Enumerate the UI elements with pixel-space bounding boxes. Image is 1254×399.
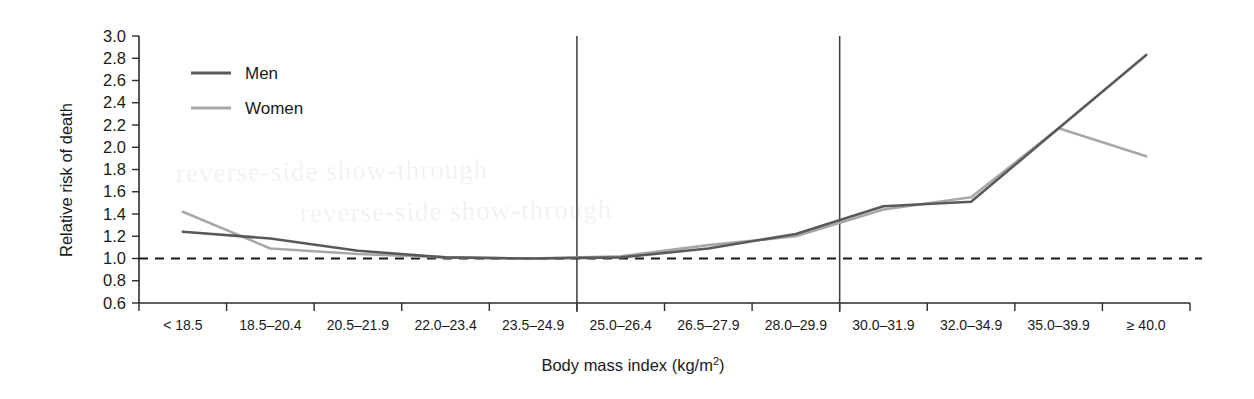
x-tick-label: 28.0–29.9 [765,317,827,333]
series-line-women [183,128,1146,258]
x-tick-label: < 18.5 [163,317,203,333]
relative-risk-of-death-line-chart: Relative risk of death 3.02.82.62.42.22.… [0,0,1254,399]
series-line-men [183,55,1146,259]
y-tick-label: 0.8 [103,271,126,289]
y-tick-label: 2.6 [103,71,126,89]
legend-label-women: Women [245,99,303,118]
y-axis-ticks: 3.02.82.62.42.22.01.81.61.41.21.00.80.6 [103,27,139,312]
chart-figure: reverse-side show-through reverse-side s… [0,0,1254,399]
data-series-group [183,55,1146,259]
x-tick-label: 23.5–24.9 [502,317,564,333]
y-tick-label: 1.0 [103,249,126,267]
y-tick-label: 1.6 [103,182,126,200]
y-tick-label: 2.8 [103,49,126,67]
x-tick-label: 32.0–34.9 [940,317,1002,333]
y-tick-label: 2.0 [103,138,126,156]
y-tick-label: 1.2 [103,227,126,245]
y-tick-label: 2.4 [103,93,126,111]
y-tick-label: 1.4 [103,205,126,223]
x-tick-label: 22.0–23.4 [414,317,476,333]
x-tick-label: 25.0–26.4 [590,317,652,333]
x-axis-ticks [139,303,1190,311]
y-tick-label: 3.0 [103,27,126,45]
y-tick-label: 0.6 [103,294,126,312]
x-tick-label: 18.5–20.4 [239,317,301,333]
x-tick-label: 26.5–27.9 [677,317,739,333]
y-tick-label: 1.8 [103,160,126,178]
x-axis-title-base: Body mass index (kg/m [541,356,712,374]
vertical-reference-lines [577,36,840,312]
x-axis-tick-labels: < 18.518.5–20.420.5–21.922.0–23.423.5–24… [163,317,1166,333]
x-tick-label: 35.0–39.9 [1027,317,1089,333]
x-tick-label: 20.5–21.9 [327,317,389,333]
x-axis-title: Body mass index (kg/m2) [541,355,724,374]
x-axis-title-close: ) [719,356,725,374]
x-tick-label: ≥ 40.0 [1127,317,1166,333]
legend-label-men: Men [245,64,278,83]
x-tick-label: 30.0–31.9 [852,317,914,333]
y-tick-label: 2.2 [103,116,126,134]
legend: MenWomen [191,64,303,118]
y-axis-title: Relative risk of death [57,103,75,257]
